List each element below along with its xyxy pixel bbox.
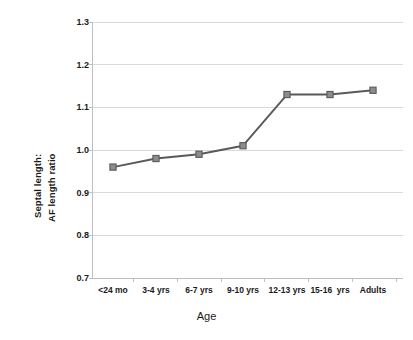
x-axis-tick-label: 12-13 yrs <box>269 285 306 295</box>
x-axis-tick-label: Adults <box>360 285 386 295</box>
x-axis-tick-label: 15-16 yrs <box>310 285 349 295</box>
chart-figure: Septal length: AF length ratio 0.70.80.9… <box>0 0 413 340</box>
x-axis-tick-label: 6-7 yrs <box>185 285 212 295</box>
x-axis-tick-label: 9-10 yrs <box>227 285 259 295</box>
data-point-marker <box>196 151 202 157</box>
x-axis-title: Age <box>0 310 413 322</box>
data-point-marker <box>284 91 290 97</box>
data-point-marker <box>240 143 246 149</box>
data-point-marker <box>370 87 376 93</box>
data-line-series-1 <box>113 90 373 167</box>
x-axis-tick-label: 3-4 yrs <box>142 285 169 295</box>
data-point-marker <box>327 91 333 97</box>
data-point-marker <box>110 164 116 170</box>
data-point-marker <box>153 155 159 161</box>
x-axis-tick-label: <24 mo <box>98 285 128 295</box>
